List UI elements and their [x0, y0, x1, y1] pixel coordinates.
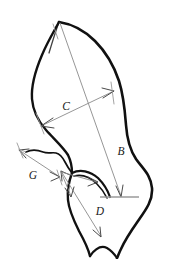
dimension-c-left-tick: [36, 113, 44, 134]
dimension-b-label: B: [117, 145, 124, 157]
dimension-g-label: G: [29, 169, 38, 181]
dimension-d-label: D: [95, 205, 105, 217]
leaf-outline-group: [26, 22, 152, 258]
leaf-diagram-canvas: B C D: [0, 0, 177, 259]
leaf-bottom-notch-path: [90, 247, 117, 258]
dimension-g-line: [19, 150, 60, 177]
dimension-d-arrowhead-lower: [93, 227, 101, 237]
dimension-c-label: C: [62, 100, 70, 112]
dimension-c-group: C: [36, 82, 114, 134]
dimension-c-line: [41, 91, 114, 126]
leaf-lower-lobe-left-path: [68, 173, 90, 256]
dimension-g-group: G: [17, 143, 62, 185]
leaf-right-margin-path: [59, 22, 152, 258]
leaf-diagram-figure: B C D: [0, 0, 177, 259]
